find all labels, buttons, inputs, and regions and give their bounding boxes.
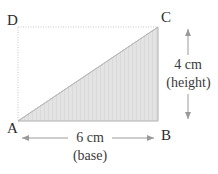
base-value: 6 cm <box>68 130 112 146</box>
triangle-diagram: D C A B 6 cm (base) 4 cm (height) <box>0 0 218 174</box>
vertex-label-c: C <box>161 10 171 25</box>
vertex-label-b: B <box>161 128 171 143</box>
vertex-label-a: A <box>7 121 18 136</box>
height-value: 4 cm <box>168 57 208 73</box>
vertex-label-d: D <box>7 13 18 28</box>
height-caption: (height) <box>161 75 216 91</box>
base-caption: (base) <box>66 148 114 164</box>
